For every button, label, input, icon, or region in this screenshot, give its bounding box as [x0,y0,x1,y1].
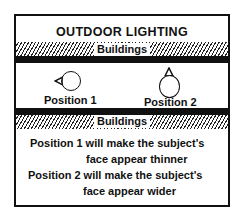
note-line-3: Position 2 will make the subject's [28,167,240,183]
note-line-1: Position 1 will make the subject's [30,135,242,151]
note-line-2: face appear thinner [86,151,245,167]
note-line-4: face appear wider [83,183,245,199]
position-1-label: Position 1 [44,94,97,106]
street-edge-top [16,56,228,63]
street-edge-bottom [16,108,228,115]
notes: Position 1 will make the subject's face … [16,135,228,199]
pointer-up-icon [164,67,174,76]
buildings-label-top: Buildings [94,43,150,56]
subject-position-1-icon [61,71,81,91]
subject-position-2-icon [159,75,180,98]
pointer-left-icon [54,76,63,86]
buildings-label-bottom: Buildings [94,115,150,128]
diagram-title: OUTDOOR LIGHTING [16,25,228,39]
diagram-frame: OUTDOOR LIGHTING Buildings Position 1 Po… [14,14,230,207]
position-2-label: Position 2 [144,96,197,108]
